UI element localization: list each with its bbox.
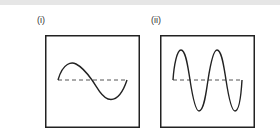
panel-label-i: (i) <box>37 15 45 25</box>
sine-wave-i <box>58 63 127 99</box>
panel-label-ii: (ii) <box>151 15 161 25</box>
top-strip <box>0 0 280 5</box>
waveform-panel-ii <box>160 35 256 129</box>
waveform-panel-i <box>45 35 141 129</box>
